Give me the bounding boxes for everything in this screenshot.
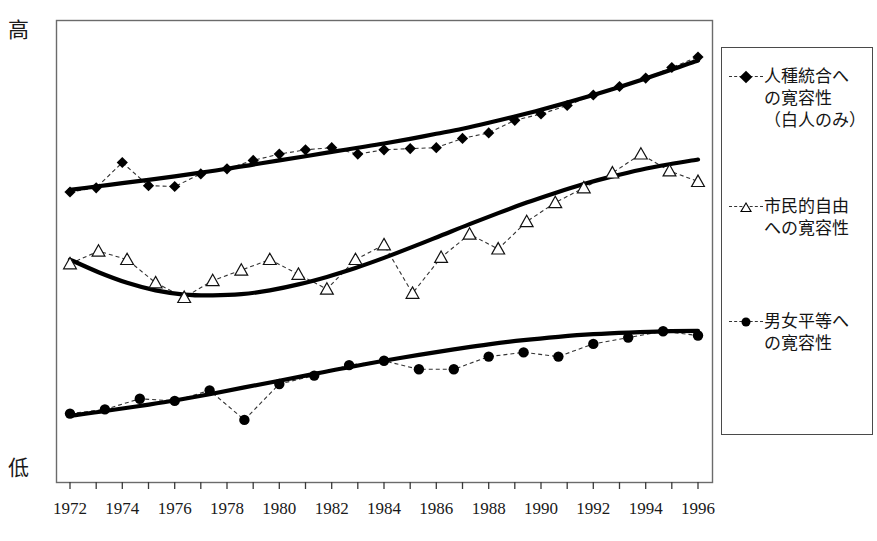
data-point-civil-liberties: [692, 175, 705, 186]
legend: 人種統合へ の寛容性 （白人のみ） 市民的自由 への寛容性 男女平等へ の寛容性: [721, 47, 873, 435]
data-point-gender-equality: [170, 396, 180, 406]
data-point-civil-liberties: [492, 243, 505, 254]
legend-item-civil-liberties: 市民的自由 への寛容性: [728, 195, 870, 239]
legend-label-civil-liberties: 市民的自由 への寛容性: [764, 195, 849, 239]
data-point-gender-equality: [658, 326, 668, 336]
data-point-civil-liberties: [406, 287, 419, 298]
data-point-civil-liberties: [520, 215, 533, 226]
data-point-gender-equality: [693, 330, 703, 340]
series-layer: [64, 51, 705, 425]
series-trend-curve-racial-integration: [70, 60, 698, 190]
data-point-gender-equality: [623, 332, 633, 342]
x-axis-label-1994: 1994: [629, 500, 663, 517]
data-point-racial-integration: [431, 142, 442, 153]
data-point-civil-liberties: [92, 245, 105, 256]
data-point-gender-equality: [518, 347, 528, 357]
data-point-gender-equality: [553, 351, 563, 361]
data-point-gender-equality: [414, 364, 424, 374]
x-axis-label-1984: 1984: [367, 500, 401, 517]
circle-marker-icon: [742, 318, 751, 327]
data-point-racial-integration: [91, 182, 102, 193]
series-civil-liberties: [64, 148, 705, 303]
data-point-racial-integration: [169, 181, 180, 192]
series-gender-equality: [65, 326, 703, 425]
diamond-marker-icon: [740, 71, 753, 84]
data-point-gender-equality: [309, 370, 319, 380]
data-point-gender-equality: [100, 404, 110, 414]
x-axis-label-1982: 1982: [315, 500, 349, 517]
data-point-civil-liberties: [292, 268, 305, 279]
series-dashed-line-civil-liberties: [70, 154, 698, 297]
legend-item-racial-integration: 人種統合へ の寛容性 （白人のみ）: [728, 65, 870, 131]
x-axis-label-1986: 1986: [419, 500, 453, 517]
data-point-civil-liberties: [206, 274, 219, 285]
data-point-racial-integration: [640, 73, 651, 84]
legend-sample-triangle: [728, 198, 764, 216]
legend-label-racial-integration: 人種統合へ の寛容性 （白人のみ）: [764, 65, 866, 131]
triangle-marker-icon: [740, 202, 752, 212]
data-point-civil-liberties: [378, 238, 391, 249]
data-point-civil-liberties: [549, 196, 562, 207]
x-axis-label-1974: 1974: [105, 500, 139, 517]
legend-sample-diamond: [728, 68, 764, 86]
series-trend-curve-gender-equality: [70, 331, 698, 416]
data-point-civil-liberties: [121, 253, 134, 264]
data-point-racial-integration: [614, 81, 625, 92]
x-axis-label-1996: 1996: [681, 500, 715, 517]
data-point-racial-integration: [588, 89, 599, 100]
data-point-gender-equality: [274, 379, 284, 389]
x-axis-label-1990: 1990: [524, 500, 558, 517]
x-axis-label-1980: 1980: [262, 500, 296, 517]
x-axis-label-1992: 1992: [576, 500, 610, 517]
legend-label-gender-equality: 男女平等へ の寛容性: [764, 310, 849, 354]
data-point-civil-liberties: [463, 228, 476, 239]
data-point-racial-integration: [221, 163, 232, 174]
data-point-civil-liberties: [349, 253, 362, 264]
data-point-gender-equality: [484, 351, 494, 361]
data-point-civil-liberties: [149, 276, 162, 287]
x-axis-label-1972: 1972: [53, 500, 87, 517]
data-point-gender-equality: [65, 408, 75, 418]
series-dashed-line-racial-integration: [70, 57, 698, 192]
chart-figure: 高 低 197219741976197819801982198419861988…: [0, 0, 877, 541]
data-point-racial-integration: [457, 133, 468, 144]
data-point-gender-equality: [379, 356, 389, 366]
legend-sample-circle: [728, 313, 764, 331]
x-axis-label-1976: 1976: [158, 500, 192, 517]
data-point-civil-liberties: [435, 251, 448, 262]
series-dashed-line-gender-equality: [70, 331, 698, 420]
x-axis-label-1978: 1978: [210, 500, 244, 517]
data-point-gender-equality: [239, 415, 249, 425]
legend-item-gender-equality: 男女平等へ の寛容性: [728, 310, 870, 354]
data-point-civil-liberties: [263, 253, 276, 264]
data-point-gender-equality: [204, 385, 214, 395]
data-point-gender-equality: [588, 339, 598, 349]
data-point-gender-equality: [344, 360, 354, 370]
data-point-gender-equality: [135, 394, 145, 404]
data-point-civil-liberties: [235, 264, 248, 275]
series-trend-curve-civil-liberties: [70, 160, 698, 296]
data-point-racial-integration: [483, 127, 494, 138]
data-point-racial-integration: [405, 143, 416, 154]
x-axis-label-1988: 1988: [472, 500, 506, 517]
data-point-civil-liberties: [635, 148, 648, 159]
data-point-civil-liberties: [606, 167, 619, 178]
data-point-gender-equality: [449, 364, 459, 374]
